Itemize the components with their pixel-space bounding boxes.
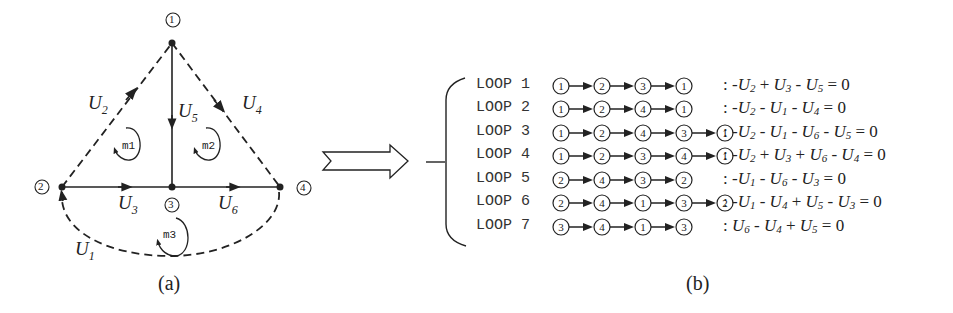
double-outline-arrow-right-icon [323, 145, 408, 178]
branch-u1-label: U1 [75, 238, 95, 264]
loop-node-label: 4 [681, 150, 687, 162]
loops-bracket [426, 78, 466, 246]
loop-node-label: 1 [558, 127, 564, 139]
branch-u6-label: U6 [218, 192, 238, 218]
loop-node-label: 4 [599, 174, 605, 186]
caption-a: (a) [158, 272, 180, 295]
loop-node-label: 4 [599, 197, 605, 209]
branch-u2-label: U2 [88, 92, 108, 118]
loop-equation: : -U1 - U6 - U3 = 0 [723, 169, 846, 189]
node-3-dot [169, 184, 176, 191]
loop-node-label: 1 [640, 197, 646, 209]
loop-node-label: 4 [640, 103, 646, 115]
loop-equation: : -U2 + U3 + U6 - U4 = 0 [723, 145, 886, 165]
caption-b: (b) [686, 272, 709, 295]
loop-paths: 1231124112431123412432241323413 [553, 78, 733, 235]
loop-node-label: 3 [640, 174, 646, 186]
branch-u5-label: U5 [178, 100, 198, 126]
node-1-label: 1 [169, 13, 175, 25]
loop-node-label: 2 [558, 197, 564, 209]
loop-label: LOOP 5 [476, 170, 530, 187]
loop-label: LOOP 1 [476, 76, 530, 93]
loop-node-label: 1 [558, 103, 564, 115]
loop-label: LOOP 7 [476, 217, 530, 234]
loop-node-label: 3 [640, 80, 646, 92]
loop-node-label: 2 [558, 174, 564, 186]
loop-node-label: 3 [681, 197, 687, 209]
branch-u4-label: U4 [242, 92, 262, 118]
mesh-m1-label: m1 [122, 140, 135, 152]
branch-u2 [62, 43, 172, 187]
node-2-dot [59, 184, 66, 191]
loop-node-label: 3 [681, 221, 687, 233]
loop-node-label: 1 [681, 80, 687, 92]
loop-node-label: 4 [640, 127, 646, 139]
loop-node-label: 3 [681, 127, 687, 139]
node-2-label: 2 [38, 180, 44, 192]
loop-node-label: 2 [599, 80, 605, 92]
loop-equation: : -U1 - U4 + U5 - U3 = 0 [723, 192, 882, 212]
node-4-label: 4 [300, 181, 306, 193]
loop-node-label: 2 [599, 150, 605, 162]
mesh-m2-label: m2 [202, 140, 215, 152]
node-1-dot [169, 40, 176, 47]
loop-label: LOOP 3 [476, 123, 530, 140]
node-3-label: 3 [168, 198, 174, 210]
loop-label: LOOP 6 [476, 193, 530, 210]
loop-equation: : -U2 - U1 - U4 = 0 [723, 98, 846, 118]
loop-equation: : -U2 + U3 - U5 = 0 [723, 75, 850, 95]
loop-node-label: 1 [681, 103, 687, 115]
loop-node-label: 1 [558, 80, 564, 92]
loop-label: LOOP 4 [476, 146, 530, 163]
loop-node-label: 1 [640, 221, 646, 233]
loop-equation: : -U2 - U1 - U6 - U5 = 0 [723, 122, 878, 142]
loop-node-label: 2 [599, 103, 605, 115]
loop-node-label: 3 [558, 221, 564, 233]
loop-node-label: 3 [640, 150, 646, 162]
node-4-dot [277, 184, 284, 191]
loop-node-label: 4 [599, 221, 605, 233]
loop-equation: : U6 - U4 + U5 = 0 [723, 216, 844, 236]
mesh-m3-label: m3 [163, 229, 176, 241]
loop-node-label: 2 [599, 127, 605, 139]
branch-u3-label: U3 [118, 192, 138, 218]
loop-label: LOOP 2 [476, 99, 530, 116]
loop-node-label: 2 [681, 174, 687, 186]
loop-node-label: 1 [558, 150, 564, 162]
